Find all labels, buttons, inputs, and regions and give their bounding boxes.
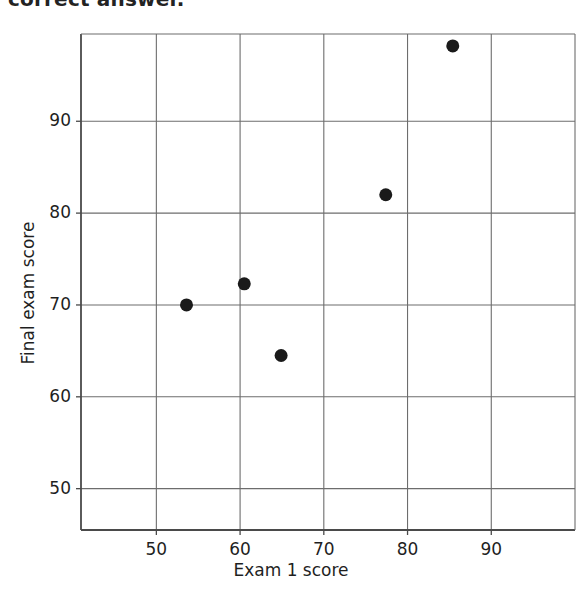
x-tick-label: 50 <box>136 539 176 559</box>
y-tick-label: 60 <box>37 386 71 406</box>
scatterplot-figure-page: correct answer. Exam 1 score Final exam … <box>0 0 582 597</box>
y-tick-label: 80 <box>37 202 71 222</box>
x-tick-label: 80 <box>388 539 428 559</box>
x-tick-label: 70 <box>304 539 344 559</box>
chart-figure: Exam 1 score Final exam score 5060708090… <box>0 0 582 597</box>
y-tick-label: 90 <box>37 110 71 130</box>
data-point <box>180 298 193 311</box>
y-tick-label: 50 <box>37 478 71 498</box>
data-point <box>379 188 392 201</box>
scatter-plot-canvas <box>0 0 582 597</box>
x-tick-label: 90 <box>471 539 511 559</box>
y-axis-label: Final exam score <box>18 203 38 383</box>
data-point <box>446 39 459 52</box>
x-tick-label: 60 <box>220 539 260 559</box>
y-tick-label: 70 <box>37 294 71 314</box>
data-point <box>275 349 288 362</box>
data-point <box>238 277 251 290</box>
x-axis-label: Exam 1 score <box>0 560 582 580</box>
